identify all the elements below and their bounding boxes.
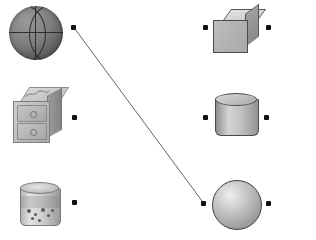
can-label-band [21,196,60,208]
chest-drawer-upper [17,105,47,122]
dot-cylinder-right[interactable] [264,115,269,120]
dot-sphere-left[interactable] [201,201,206,206]
can-lid [20,182,59,194]
drawer-knob-upper [30,111,37,118]
chest-of-drawers-icon[interactable] [12,87,64,143]
dot-cylinder-left[interactable] [203,115,208,120]
cube-front-face [213,20,248,53]
basketball-seam-curve-right [29,6,63,60]
cube-icon[interactable] [212,9,264,57]
drawer-knob-lower [30,129,37,136]
can-label-speck [41,208,45,212]
can-label-speck [27,209,31,213]
can-label-speck [47,214,50,217]
dot-food-can[interactable] [72,200,77,205]
dot-chest-of-drawers[interactable] [72,115,77,120]
can-label-speck [51,209,54,212]
can-label-speck [31,217,34,220]
matching-worksheet [0,0,316,240]
sphere-icon[interactable] [212,180,262,230]
dot-basketball[interactable] [71,25,76,30]
basketball-icon[interactable] [9,6,63,60]
can-label-speck [38,219,41,222]
sphere-graphic [212,180,262,230]
cylinder-icon[interactable] [214,92,262,142]
dot-cube-right[interactable] [266,25,271,30]
basketball-graphic [9,6,63,60]
dot-cube-left[interactable] [203,25,208,30]
chest-drawer-lower [17,123,47,140]
can-icon[interactable] [18,180,62,228]
connector-line-basketball-sphere[interactable] [75,29,205,205]
dot-sphere-right[interactable] [266,201,271,206]
chest-front-face [13,101,50,143]
cylinder-top-ellipse [215,93,257,106]
can-label-speck [34,213,37,216]
